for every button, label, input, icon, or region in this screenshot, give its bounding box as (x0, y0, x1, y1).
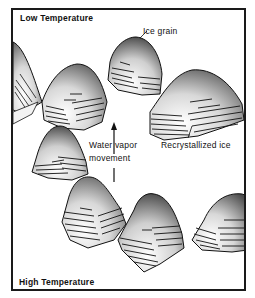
label-low-temperature: Low Temperature (20, 13, 93, 23)
ice-grain-1 (42, 64, 107, 130)
ice-grain-3 (150, 70, 244, 140)
label-movement: movement (89, 153, 130, 163)
label-ice-grain: Ice grain (143, 26, 177, 36)
ice-grain-6 (118, 194, 184, 272)
ice-grain-2 (108, 31, 162, 95)
ice-grains-illustration (13, 10, 246, 291)
ice-grain-5 (62, 177, 126, 248)
water-vapor-arrow (111, 122, 117, 182)
label-recrystallized-ice: Recrystallized ice (161, 140, 231, 150)
ice-grain-7 (192, 194, 246, 252)
label-high-temperature: High Temperature (19, 277, 94, 287)
ice-grain-4 (32, 126, 88, 180)
label-water-vapor: Water vapor (89, 140, 137, 150)
